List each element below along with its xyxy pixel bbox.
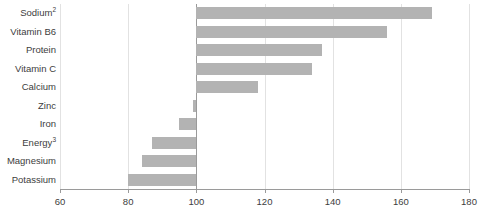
gridline-180	[469, 4, 470, 189]
bar-vitamin-b6[interactable]	[196, 26, 387, 38]
footnote-marker: 2	[52, 6, 56, 13]
bar-chart: Sodium2Vitamin B6ProteinVitamin CCalcium…	[0, 0, 482, 221]
x-tick-180	[469, 189, 470, 193]
bar-calcium[interactable]	[196, 81, 257, 93]
category-label-magnesium: Magnesium	[7, 152, 56, 171]
x-tick-80	[128, 189, 129, 193]
category-label-zinc: Zinc	[38, 97, 56, 116]
bar-protein[interactable]	[196, 44, 322, 56]
category-label-potassium: Potassium	[12, 171, 56, 190]
category-label-vitamin-c: Vitamin C	[15, 60, 56, 79]
bar-row	[60, 78, 469, 97]
bar-energy[interactable]	[152, 137, 196, 149]
footnote-marker: 3	[52, 135, 56, 142]
x-tick-120	[265, 189, 266, 193]
category-axis-labels: Sodium2Vitamin B6ProteinVitamin CCalcium…	[0, 4, 56, 189]
x-tick-label-120: 120	[257, 196, 273, 207]
category-label-calcium: Calcium	[22, 78, 56, 97]
bar-row	[60, 4, 469, 23]
bar-potassium[interactable]	[128, 174, 196, 186]
bar-row	[60, 60, 469, 79]
x-tick-label-80: 80	[123, 196, 134, 207]
bar-vitamin-c[interactable]	[196, 63, 312, 75]
x-tick-100	[196, 189, 197, 193]
category-label-iron: Iron	[40, 115, 56, 134]
x-tick-60	[60, 189, 61, 193]
plot-area	[60, 4, 469, 189]
category-label-energy: Energy3	[22, 134, 56, 153]
bar-row	[60, 97, 469, 116]
x-tick-label-160: 160	[393, 196, 409, 207]
bar-row	[60, 23, 469, 42]
bar-row	[60, 41, 469, 60]
bar-row	[60, 152, 469, 171]
x-tick-label-180: 180	[461, 196, 477, 207]
x-tick-140	[333, 189, 334, 193]
category-label-vitamin-b6: Vitamin B6	[10, 23, 56, 42]
bar-iron[interactable]	[179, 118, 196, 130]
bar-sodium[interactable]	[196, 7, 431, 19]
x-tick-label-60: 60	[55, 196, 66, 207]
bar-zinc[interactable]	[193, 100, 196, 112]
bar-rows	[60, 4, 469, 189]
bar-row	[60, 115, 469, 134]
bar-row	[60, 134, 469, 153]
bar-row	[60, 171, 469, 190]
bar-magnesium[interactable]	[142, 155, 197, 167]
category-label-protein: Protein	[26, 41, 56, 60]
x-tick-label-100: 100	[188, 196, 204, 207]
x-tick-160	[401, 189, 402, 193]
category-label-sodium: Sodium2	[20, 4, 56, 23]
x-tick-label-140: 140	[325, 196, 341, 207]
